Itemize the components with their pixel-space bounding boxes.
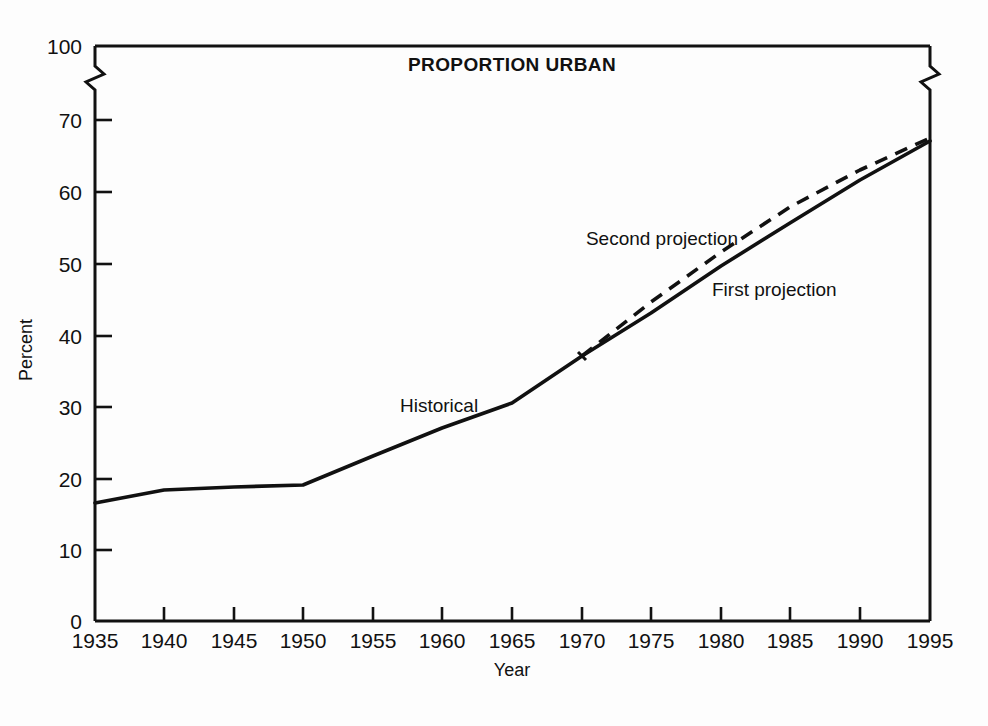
x-tick-label-1940: 1940 (141, 629, 188, 652)
y-axis-title: Percent (16, 319, 36, 381)
y-tick-label-70: 70 (59, 109, 82, 132)
x-tick-label-1945: 1945 (211, 629, 258, 652)
y-tick-label-40: 40 (59, 325, 82, 348)
y-tick-label-60: 60 (59, 181, 82, 204)
x-tick-label-1970: 1970 (559, 629, 606, 652)
y-axis-spine-right (921, 46, 939, 621)
x-tick-label-1995: 1995 (907, 629, 954, 652)
x-tick-label-1975: 1975 (628, 629, 675, 652)
x-tick-label-1935: 1935 (72, 629, 119, 652)
annotation-first-projection: First projection (712, 279, 837, 300)
annotation-historical: Historical (400, 395, 478, 416)
x-axis-title: Year (494, 660, 530, 680)
x-tick-label-1980: 1980 (698, 629, 745, 652)
y-tick-label-30: 30 (59, 396, 82, 419)
y-tick-label-20: 20 (59, 468, 82, 491)
x-tick-label-1965: 1965 (489, 629, 536, 652)
y-tick-label-10: 10 (59, 539, 82, 562)
x-axis-ticks (164, 607, 860, 621)
x-tick-label-1960: 1960 (419, 629, 466, 652)
chart-page: 100 70 60 50 40 30 20 10 0 Percent 1935 … (0, 0, 988, 726)
x-tick-label-1985: 1985 (767, 629, 814, 652)
x-tick-label-1950: 1950 (280, 629, 327, 652)
annotation-second-projection: Second projection (586, 228, 738, 249)
series-historical (95, 356, 582, 503)
x-tick-label-1990: 1990 (837, 629, 884, 652)
chart-title: PROPORTION URBAN (408, 54, 616, 75)
y-tick-label-50: 50 (59, 253, 82, 276)
proportion-urban-chart: 100 70 60 50 40 30 20 10 0 Percent 1935 … (0, 0, 988, 726)
x-tick-label-1955: 1955 (350, 629, 397, 652)
y-tick-label-100: 100 (47, 35, 82, 58)
y-axis-ticks (95, 120, 112, 550)
y-axis-spine-upper (86, 46, 104, 621)
